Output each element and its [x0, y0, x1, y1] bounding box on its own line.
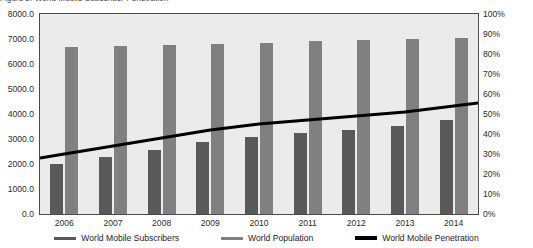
- y-axis-right-tick: 50%: [483, 109, 529, 119]
- chart-legend: World Mobile SubscribersWorld Population…: [0, 233, 533, 243]
- y-axis-right-tick: 100%: [483, 9, 529, 19]
- y-axis-right-tick: 60%: [483, 89, 529, 99]
- x-axis-tick: 2012: [347, 218, 366, 228]
- legend-label: World Mobile Subscribers: [81, 233, 179, 243]
- plot-area: [39, 13, 479, 215]
- y-axis-left-tick: 7000.0: [0, 34, 34, 44]
- y-axis-left-tick: 0.0: [0, 209, 34, 219]
- legend-label: World Population: [248, 233, 313, 243]
- x-axis-tick: 2007: [103, 218, 122, 228]
- y-axis-left-tick: 4000.0: [0, 109, 34, 119]
- legend-swatch-icon: [355, 236, 377, 240]
- y-axis-left-tick: 5000.0: [0, 84, 34, 94]
- penetration-line: [40, 14, 478, 214]
- legend-swatch-icon: [221, 237, 243, 240]
- y-axis-left-tick: 6000.0: [0, 59, 34, 69]
- x-axis-tick: 2009: [201, 218, 220, 228]
- legend-item[interactable]: World Population: [221, 233, 313, 243]
- legend-item[interactable]: World Mobile Penetration: [355, 233, 478, 243]
- x-axis-tick: 2006: [55, 218, 74, 228]
- y-axis-right-tick: 20%: [483, 169, 529, 179]
- y-axis-right-tick: 0%: [483, 209, 529, 219]
- y-axis-right-tick: 90%: [483, 29, 529, 39]
- y-axis-right-tick: 10%: [483, 189, 529, 199]
- y-axis-right-tick: 30%: [483, 149, 529, 159]
- x-axis-tick: 2010: [249, 218, 268, 228]
- legend-swatch-icon: [54, 237, 76, 240]
- y-axis-right-tick: 80%: [483, 49, 529, 59]
- y-axis-left-tick: 2000.0: [0, 159, 34, 169]
- y-axis-left-tick: 8000.0: [0, 9, 34, 19]
- legend-label: World Mobile Penetration: [382, 233, 478, 243]
- y-axis-right-tick: 40%: [483, 129, 529, 139]
- x-axis-tick: 2013: [395, 218, 414, 228]
- x-axis-tick: 2014: [444, 218, 463, 228]
- chart-title: Figure 2: World Mobile Subscriber Penetr…: [0, 0, 168, 3]
- penetration-line-path: [40, 103, 478, 158]
- chart-container: Figure 2: World Mobile Subscriber Penetr…: [0, 0, 533, 248]
- x-axis-tick: 2011: [298, 218, 316, 228]
- y-axis-left-tick: 3000.0: [0, 134, 34, 144]
- y-axis-left-tick: 1000.0: [0, 184, 34, 194]
- y-axis-right-tick: 70%: [483, 69, 529, 79]
- x-axis-tick: 2008: [152, 218, 171, 228]
- legend-item[interactable]: World Mobile Subscribers: [54, 233, 179, 243]
